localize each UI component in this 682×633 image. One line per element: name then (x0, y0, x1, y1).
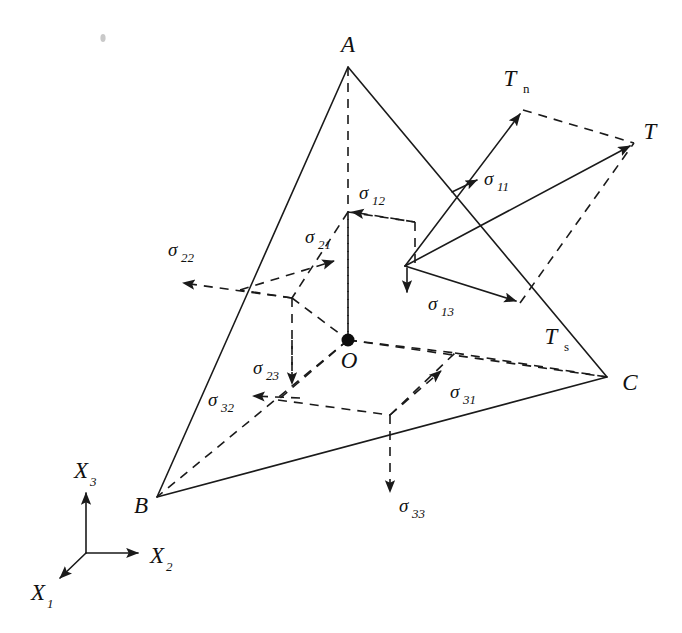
edge-A-B (157, 67, 348, 497)
parallelogram-Tn-T (523, 110, 634, 143)
traction-vectors (405, 110, 634, 303)
axis-label-X2: X 2 (149, 543, 173, 574)
vector-label-Ts-base: T (545, 324, 560, 349)
stress-label-sigma12-sub: 12 (372, 193, 386, 208)
stress-label-sigma33-sub: 33 (411, 506, 426, 521)
tetrahedron-hidden-edges (157, 67, 607, 497)
cube-edge-backleft-o (292, 298, 348, 340)
stress-label-sigma31: σ 31 (450, 381, 476, 407)
stress-label-sigma22: σ 22 (168, 239, 195, 265)
axis-label-X1: X 1 (30, 580, 54, 611)
cube-edge-right-to-c (455, 353, 607, 377)
axis-label-X1-sub: 1 (47, 596, 54, 611)
scan-speck (100, 34, 105, 42)
cube-edge-o-right-bottom (348, 340, 455, 353)
edge-B-C (157, 377, 607, 497)
vertex-label-B: B (134, 493, 148, 518)
vector-label-T: T (644, 119, 659, 144)
cube-edge-bottom-back (278, 400, 390, 415)
vector-T (405, 146, 630, 266)
axis-label-X3: X 3 (73, 458, 97, 489)
stress-label-sigma13-base: σ (428, 293, 438, 314)
arrow-sigma21 (240, 261, 334, 290)
vector-label-Tn: T n (504, 66, 530, 96)
vertex-label-O: O (341, 348, 358, 373)
axis-label-X1-base: X (30, 580, 46, 605)
stress-label-sigma22-sub: 22 (181, 250, 195, 265)
arrow-sigma22 (183, 283, 292, 298)
stress-label-sigma21-sub: 21 (318, 237, 331, 252)
cube-edge-bottom-right (390, 353, 455, 415)
edge-A-C (348, 67, 607, 377)
stress-label-sigma11-base: σ (484, 168, 494, 189)
axis-label-X3-sub: 3 (89, 474, 97, 489)
stress-label-sigma31-base: σ (450, 381, 460, 402)
stress-label-sigma12: σ 12 (359, 182, 386, 208)
stress-label-sigma21: σ 21 (305, 226, 331, 252)
tetrahedron-edges (157, 67, 607, 497)
stress-label-sigma33-base: σ (399, 495, 409, 516)
cube-edge-top-backleft (292, 212, 348, 298)
parallelogram-Ts-T (520, 143, 634, 303)
stress-label-sigma12-base: σ (359, 182, 369, 203)
arrow-sigma11 (452, 180, 477, 192)
diagram-canvas: A B C O T T n T s σ 11 σ 12 σ 13 σ 21 σ … (0, 0, 682, 633)
arrow-sigma32 (253, 396, 300, 398)
cube-edge-o-backbottom (278, 340, 348, 400)
stress-label-sigma11-sub: 11 (497, 179, 509, 194)
stress-arrows (183, 180, 477, 492)
vector-label-Ts-sub: s (564, 339, 569, 354)
stress-label-sigma33: σ 33 (399, 495, 426, 521)
coordinate-axes (60, 493, 138, 578)
vertex-label-C: C (622, 370, 638, 395)
stress-label-sigma32-base: σ (208, 389, 218, 410)
stress-label-sigma23-base: σ (253, 357, 263, 378)
stress-label-sigma13: σ 13 (428, 293, 455, 319)
axis-X1-arrow (60, 553, 86, 578)
stress-tetrahedron-figure: A B C O T T n T s σ 11 σ 12 σ 13 σ 21 σ … (0, 0, 682, 633)
stress-label-sigma31-sub: 31 (462, 392, 476, 407)
vector-label-Tn-base: T (504, 66, 519, 91)
stress-label-sigma32: σ 32 (208, 389, 235, 415)
vertex-label-A: A (339, 32, 356, 57)
stress-label-sigma22-base: σ (168, 239, 178, 260)
stress-label-sigma23: σ 23 (253, 357, 280, 383)
stress-label-sigma21-base: σ (305, 226, 315, 247)
vector-Ts (405, 266, 516, 301)
vector-label-Ts: T s (545, 324, 569, 354)
stress-label-sigma23-sub: 23 (266, 368, 280, 383)
axis-label-X2-sub: 2 (166, 559, 173, 574)
origin-point-O (342, 334, 355, 347)
arrow-sigma31 (390, 371, 441, 415)
vector-label-Tn-sub: n (523, 81, 530, 96)
stress-label-sigma13-sub: 13 (441, 304, 455, 319)
stress-label-sigma11: σ 11 (484, 168, 509, 194)
axis-label-X3-base: X (73, 458, 89, 483)
axis-label-X2-base: X (149, 543, 165, 568)
stress-label-sigma32-sub: 32 (220, 400, 235, 415)
